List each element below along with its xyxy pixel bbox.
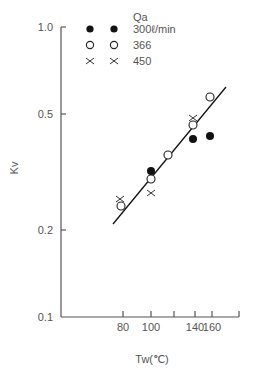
x-tick: 160 [203,311,221,333]
y-axis-label: Kv [8,161,20,174]
x-tick-label: 140 [186,321,204,333]
y-tick-label: 1.0 [38,21,53,33]
y-tick-label: 0.5 [38,108,53,120]
cross-marker [110,58,118,64]
x-tick: 100 [142,311,160,333]
open-circle-marker [147,175,155,183]
legend: Qa 300ℓ/min366450 [86,11,176,67]
open-circle-marker [110,41,117,48]
open-circle-marker [86,41,93,48]
cross-marker [189,115,197,121]
x-tick-label: 80 [117,321,129,333]
legend-label: 366 [133,39,151,51]
x-axis: 80100140160 [61,311,239,333]
x-tick: 140 [186,311,204,333]
filled-circle-marker [147,167,155,175]
y-axis: 0.10.20.51.0 [38,21,66,323]
filled-circle-marker [206,132,214,140]
y-tick-label: 0.1 [38,311,53,323]
y-tick: 0.5 [38,108,66,120]
open-circle-marker [164,151,172,159]
filled-circle-marker [110,25,117,32]
legend-label: 450 [133,55,151,67]
legend-entry: 300ℓ/min [86,23,175,35]
open-circle-marker [117,202,125,210]
y-tick: 0.1 [38,311,53,323]
x-tick: 80 [117,311,129,333]
open-circle-marker [206,93,214,101]
legend-entry: 366 [86,39,151,51]
y-tick: 1.0 [38,21,66,33]
chart: 0.10.20.51.0 80100140160 Kv Tw(℃) Qa 300… [0,0,253,376]
legend-label: 300ℓ/min [133,23,176,35]
x-axis-label: Tw(℃) [135,353,168,365]
y-tick-label: 0.2 [38,224,53,236]
x-tick-label: 160 [203,321,221,333]
filled-circle-marker [189,135,197,143]
legend-entry: 450 [86,55,151,67]
cross-marker [86,58,94,64]
x-tick-label: 100 [142,321,160,333]
y-tick: 0.2 [38,224,66,236]
data-points [116,93,214,210]
cross-marker [147,190,155,196]
cross-marker [116,196,124,202]
open-circle-marker [189,121,197,129]
legend-title: Qa [133,11,149,23]
filled-circle-marker [86,25,93,32]
